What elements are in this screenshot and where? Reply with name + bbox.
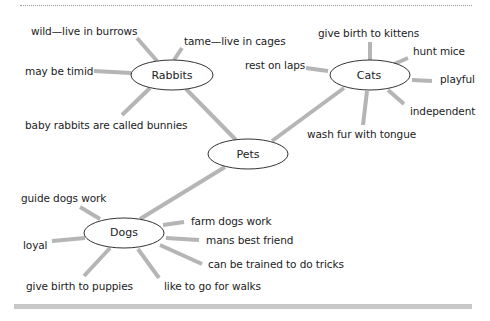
fact-cats-wash: wash fur with tongue bbox=[307, 128, 416, 141]
fact-dogs-puppies: give birth to puppies bbox=[26, 280, 133, 293]
fact-dogs-tricks: can be trained to do tricks bbox=[208, 258, 344, 271]
spoke-rabbits-wild bbox=[137, 38, 157, 61]
spoke-rabbits-bunnies bbox=[122, 88, 150, 115]
node-dogs-label: Dogs bbox=[110, 226, 138, 239]
spoke-rabbits-timid bbox=[94, 71, 131, 73]
fact-dogs-best-friend: mans best friend bbox=[206, 234, 293, 247]
bottom-rule-bar bbox=[14, 304, 472, 309]
spoke-cats-laps bbox=[306, 68, 328, 71]
fact-dogs-farm: farm dogs work bbox=[191, 215, 271, 228]
fact-dogs-walks: like to go for walks bbox=[164, 280, 261, 293]
fact-cats-playful: playful bbox=[440, 73, 475, 86]
fact-dogs-loyal: loyal bbox=[23, 239, 47, 252]
spoke-dogs-farm bbox=[163, 222, 184, 225]
fact-rabbits-timid: may be timid bbox=[25, 65, 93, 78]
fact-cats-kittens: give birth to kittens bbox=[318, 27, 419, 40]
fact-rabbits-wild: wild—live in burrows bbox=[31, 25, 137, 38]
spoke-dogs-loyal bbox=[52, 238, 85, 241]
fact-cats-mice: hunt mice bbox=[413, 45, 465, 58]
spoke-cats-wash bbox=[363, 91, 367, 125]
fact-dogs-guide: guide dogs work bbox=[21, 192, 106, 205]
spoke-cats-independent bbox=[388, 90, 404, 104]
spoke-rabbits-tame bbox=[174, 48, 182, 60]
spoke-cats-playful bbox=[412, 80, 432, 81]
fact-cats-independent: independent bbox=[410, 105, 475, 118]
node-cats-label: Cats bbox=[357, 69, 381, 82]
spoke-dogs-best-friend bbox=[166, 238, 199, 240]
spoke-dogs-guide bbox=[80, 207, 100, 219]
spoke-dogs-tricks bbox=[160, 245, 202, 264]
connector-rabbits-pets bbox=[186, 89, 236, 140]
fact-rabbits-bunnies: baby rabbits are called bunnies bbox=[25, 119, 187, 132]
node-pets-label: Pets bbox=[236, 148, 259, 161]
node-rabbits-label: Rabbits bbox=[151, 69, 192, 82]
connector-pets-dogs bbox=[140, 167, 225, 219]
spoke-cats-mice bbox=[394, 58, 408, 64]
fact-cats-laps: rest on laps bbox=[245, 59, 305, 72]
spoke-dogs-puppies bbox=[84, 248, 110, 276]
fact-rabbits-tame: tame—live in cages bbox=[184, 35, 286, 48]
spoke-dogs-walks bbox=[138, 249, 159, 278]
